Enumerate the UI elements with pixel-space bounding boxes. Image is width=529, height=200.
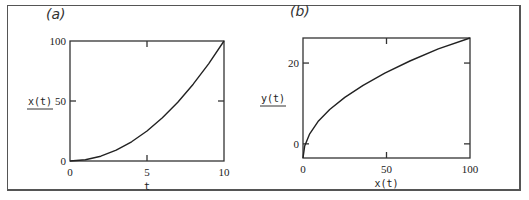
x-tick-label: 100 [462,163,479,175]
panel-label: (a) [46,6,66,22]
x-axis-label: t [144,181,150,192]
y-tick-label: 0 [294,138,300,150]
plot-frame [303,38,470,158]
x-tick-label: 50 [381,163,393,175]
figure: (a)0510050100tx(t)(b)050100020x(t)y(t) [0,0,529,200]
x-tick-label: 10 [219,166,231,178]
x-tick-label: 0 [67,166,73,178]
y-tick-label: 0 [61,155,67,167]
y-tick-label: 20 [288,57,300,69]
panel-label: (b) [290,3,310,19]
plot-frame [70,41,224,161]
y-tick-label: 50 [55,95,67,107]
x-axis-label: x(t) [374,178,398,189]
y-axis-label: y(t) [261,93,285,104]
data-line [70,41,224,161]
data-line [303,38,470,158]
x-tick-label: 5 [144,166,150,178]
y-tick-label: 100 [50,35,67,47]
x-tick-label: 0 [300,163,306,175]
y-axis-label: x(t) [28,96,52,107]
